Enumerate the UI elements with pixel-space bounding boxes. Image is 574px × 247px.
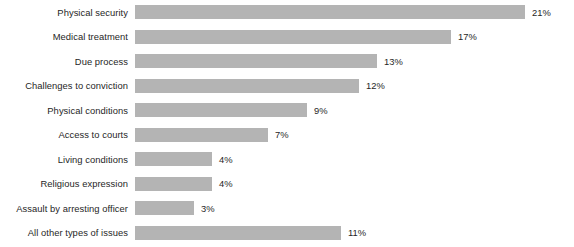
bar-track: 13% — [135, 54, 403, 68]
bar-fill — [135, 152, 212, 166]
category-label: Access to courts — [0, 129, 128, 140]
bar-row: Assault by arresting officer 3% — [0, 196, 574, 221]
bar-value-label: 9% — [314, 105, 328, 116]
bar-row: Access to courts 7% — [0, 123, 574, 148]
bar-track: 17% — [135, 30, 477, 44]
bar-value-label: 3% — [201, 203, 215, 214]
bar-track: 7% — [135, 128, 289, 142]
bar-value-label: 7% — [275, 129, 289, 140]
category-label: Physical security — [0, 7, 128, 18]
category-label: Living conditions — [0, 154, 128, 165]
bar-value-label: 12% — [366, 80, 385, 91]
bar-value-label: 17% — [458, 31, 477, 42]
bar-row: Physical conditions 9% — [0, 98, 574, 123]
bar-row: Physical security 21% — [0, 0, 574, 25]
bar-track: 4% — [135, 177, 233, 191]
category-label: Medical treatment — [0, 31, 128, 42]
bar-track: 3% — [135, 201, 215, 215]
bar-row: Religious expression 4% — [0, 172, 574, 197]
bar-fill — [135, 103, 307, 117]
bar-track: 12% — [135, 79, 385, 93]
bar-fill — [135, 54, 377, 68]
bar-row: Medical treatment 17% — [0, 25, 574, 50]
bar-fill — [135, 226, 341, 240]
bar-value-label: 11% — [348, 227, 366, 238]
bar-fill — [135, 30, 451, 44]
bar-value-label: 4% — [219, 178, 233, 189]
bar-row: Due process 13% — [0, 49, 574, 74]
bar-fill — [135, 79, 359, 93]
category-label: Due process — [0, 56, 128, 67]
chart-plot-area: Physical security 21% Medical treatment … — [0, 0, 574, 247]
bar-fill — [135, 177, 212, 191]
bar-value-label: 13% — [384, 56, 403, 67]
bar-fill — [135, 5, 525, 19]
horizontal-bar-chart: Physical security 21% Medical treatment … — [0, 0, 574, 247]
bar-fill — [135, 128, 268, 142]
category-label: Assault by arresting officer — [0, 203, 128, 214]
category-label: Religious expression — [0, 178, 128, 189]
category-label: Challenges to conviction — [0, 80, 128, 91]
category-label: Physical conditions — [0, 105, 128, 116]
bar-track: 9% — [135, 103, 328, 117]
bar-row: Living conditions 4% — [0, 147, 574, 172]
bar-value-label: 21% — [532, 7, 551, 18]
bar-fill — [135, 201, 194, 215]
category-label: All other types of issues — [0, 227, 128, 238]
bar-row: Challenges to conviction 12% — [0, 74, 574, 99]
bar-track: 21% — [135, 5, 551, 19]
bar-value-label: 4% — [219, 154, 233, 165]
bar-track: 4% — [135, 152, 233, 166]
bar-row: All other types of issues 11% — [0, 221, 574, 246]
bar-track: 11% — [135, 226, 366, 240]
